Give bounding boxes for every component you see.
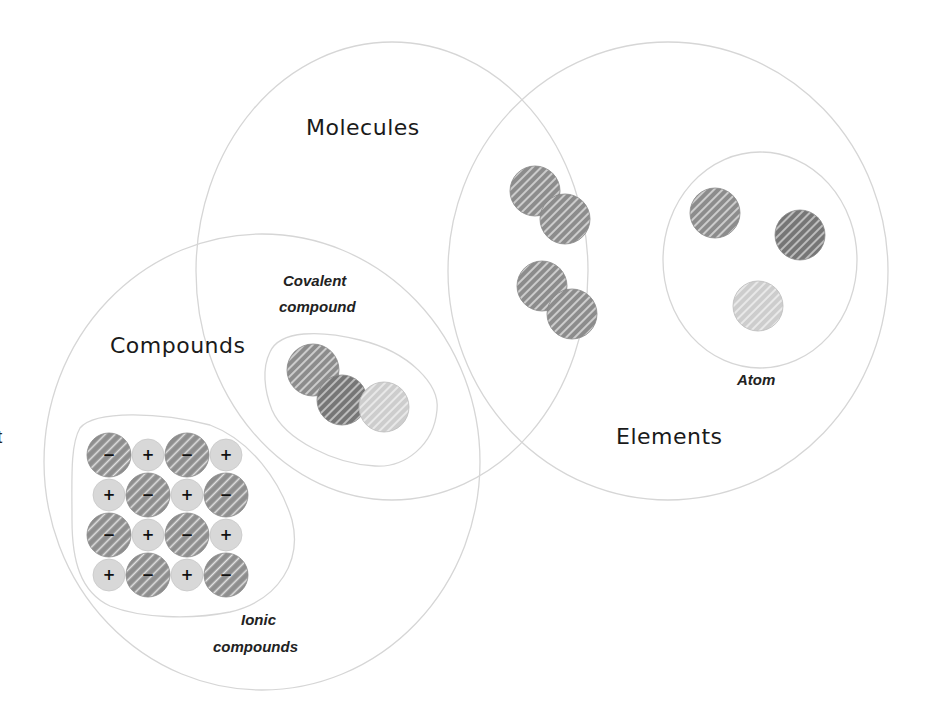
atom-particle [690, 188, 740, 238]
cation: + [210, 439, 242, 471]
anion: − [165, 513, 209, 557]
minus-symbol: − [142, 566, 155, 584]
covalent-molecule [287, 344, 409, 432]
plus-symbol: + [103, 486, 116, 504]
covalent-label-line2: compound [279, 298, 356, 315]
anion: − [204, 553, 248, 597]
ionic-label-line2: compounds [213, 638, 298, 655]
plus-symbol: + [103, 566, 116, 584]
anion: − [204, 473, 248, 517]
anion: − [126, 553, 170, 597]
minus-symbol: − [220, 566, 233, 584]
atom-particle [775, 210, 825, 260]
minus-symbol: − [103, 526, 116, 544]
plus-symbol: + [142, 526, 155, 544]
minus-symbol: − [220, 486, 233, 504]
diatomic-molecule [517, 261, 597, 339]
minus-symbol: − [181, 446, 194, 464]
minus-symbol: − [181, 526, 194, 544]
plus-symbol: + [181, 486, 194, 504]
compounds-label: Compounds [110, 333, 246, 358]
minus-symbol: − [142, 486, 155, 504]
atom-particle [733, 281, 783, 331]
plus-symbol: + [220, 446, 233, 464]
atom-group [690, 188, 825, 331]
plus-symbol: + [142, 446, 155, 464]
cation: + [132, 519, 164, 551]
venn-diagram: Molecules Elements Compounds Covalent co… [0, 0, 925, 708]
anion: − [126, 473, 170, 517]
plus-symbol: + [220, 526, 233, 544]
cation: + [171, 559, 203, 591]
ionic-lattice: −+−++−+−−+−++−+− [87, 433, 248, 597]
covalent-label-line1: Covalent [283, 272, 347, 289]
set-outlines [44, 42, 888, 690]
elements-label: Elements [616, 424, 723, 449]
molecules-label: Molecules [306, 115, 420, 140]
anion: − [87, 513, 131, 557]
cation: + [93, 559, 125, 591]
diatomic-molecules [510, 166, 597, 339]
diatomic-molecule [510, 166, 590, 244]
atom-label: Atom [736, 371, 775, 388]
minus-symbol: − [103, 446, 116, 464]
cation: + [210, 519, 242, 551]
anion: − [165, 433, 209, 477]
plus-symbol: + [181, 566, 194, 584]
anion: − [87, 433, 131, 477]
atom-group-outline [663, 152, 857, 368]
cation: + [132, 439, 164, 471]
ionic-label-line1: Ionic [241, 611, 277, 628]
cation: + [93, 479, 125, 511]
cation: + [171, 479, 203, 511]
